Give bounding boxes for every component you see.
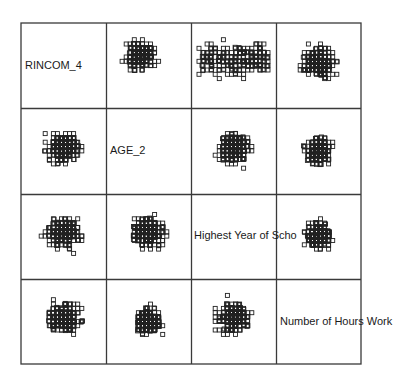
scatter-cell-r2-c1: [131, 213, 168, 252]
scatter-cell-r1-c2: [213, 131, 254, 170]
scatterplot-matrix: RINCOM_4 AGE_2 Highest Year of Scho Numb…: [0, 0, 410, 381]
diagonal-label-hours: Number of Hours Work: [280, 315, 393, 327]
scatter-cell-r1-c3: [302, 135, 335, 167]
scatter-points: [39, 38, 339, 337]
diagonal-labels: RINCOM_4 AGE_2 Highest Year of Scho Numb…: [25, 59, 393, 327]
scatter-cell-r0-c1: [120, 38, 161, 73]
scatter-cell-r0-c2: [197, 38, 270, 81]
diagonal-label-rincom: RINCOM_4: [25, 59, 82, 71]
diagonal-label-age: AGE_2: [110, 144, 145, 156]
scatter-cell-r2-c0: [39, 217, 84, 256]
scatter-cell-r3-c0: [47, 298, 85, 337]
diagonal-label-school: Highest Year of Scho: [194, 229, 297, 241]
scatter-cell-r3-c2: [213, 293, 254, 336]
scatter-cell-r1-c0: [43, 132, 84, 166]
scatter-cell-r0-c3: [298, 42, 339, 81]
scatter-cell-r2-c3: [302, 217, 334, 251]
scatter-cell-r3-c1: [136, 302, 165, 336]
